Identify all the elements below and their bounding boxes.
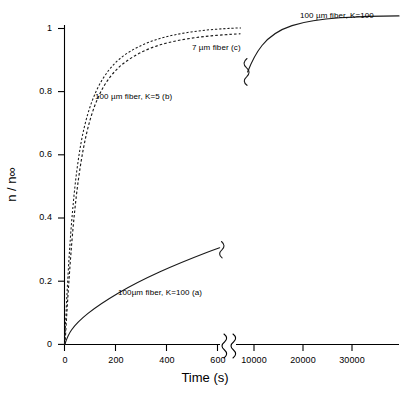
- series-label-a: 100µm fiber, K=100 (a): [118, 289, 202, 297]
- series-line-b: [65, 34, 241, 345]
- y-tick-label-0.2: 0.2: [28, 277, 52, 286]
- chart-figure: line: [0, 0, 404, 395]
- y-tick-label-0.8: 0.8: [28, 87, 52, 96]
- y-tick-label-0.4: 0.4: [28, 213, 52, 222]
- y-tick-label-1: 1: [30, 24, 52, 33]
- x-tick-label-0: 0: [50, 356, 80, 365]
- plot-area: [0, 0, 404, 395]
- y-axis-ticks: [58, 29, 65, 345]
- series-label-d: 100 µm fiber, K=100: [300, 12, 374, 20]
- y-tick-label-0.6: 0.6: [28, 150, 52, 159]
- x-tick-label-30000: 30000: [331, 356, 373, 365]
- x-axis-title: Time (s): [160, 371, 250, 384]
- x-tick-label-600: 600: [202, 356, 234, 365]
- x-tick-label-400: 400: [151, 356, 183, 365]
- series-line-d: [248, 16, 399, 72]
- x-tick-label-20000: 20000: [282, 356, 324, 365]
- y-axis-title: n / n∞: [5, 155, 18, 215]
- series-a-break-symbol: [220, 242, 224, 258]
- x-tick-label-200: 200: [100, 356, 132, 365]
- x-tick-label-10000: 10000: [233, 356, 275, 365]
- y-tick-label-0: 0: [30, 340, 52, 349]
- x-axis-ticks-segment-1: [65, 345, 218, 352]
- series-d-break-symbol: [244, 59, 249, 86]
- x-axis-ticks-segment-2: [254, 345, 352, 352]
- series-label-c: 7 µm fiber (c): [192, 44, 241, 52]
- series-label-b: 100 µm fiber, K=5 (b): [95, 93, 172, 101]
